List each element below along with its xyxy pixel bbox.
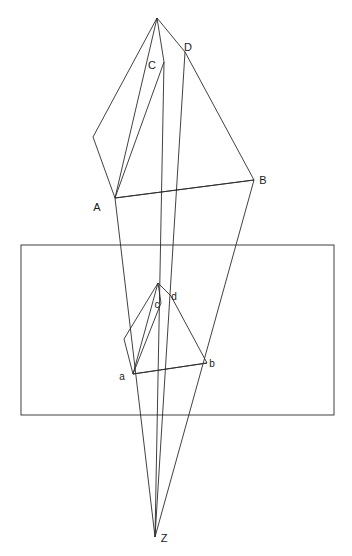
projection-rays bbox=[115, 52, 254, 537]
lower-edge-ab bbox=[133, 363, 207, 374]
vertex-label-B: B bbox=[259, 174, 266, 186]
vertex-label-c: c bbox=[155, 299, 160, 310]
lower-edge-apex-a bbox=[133, 283, 158, 374]
vertex-label-a: a bbox=[119, 371, 125, 382]
vertex-label-d: d bbox=[171, 291, 177, 302]
upper-figure-outline bbox=[93, 18, 254, 198]
upper-edge-apex-A bbox=[115, 18, 157, 198]
vertex-label-Z: Z bbox=[161, 532, 168, 544]
vertex-label-C: C bbox=[148, 59, 156, 71]
vertex-label-D: D bbox=[184, 41, 192, 53]
picture-plane-rectangle bbox=[21, 245, 334, 415]
upper-edge-AB bbox=[115, 180, 254, 198]
vertex-label-b: b bbox=[209, 358, 215, 369]
perspective-projection-diagram: A B C D a b c d Z bbox=[0, 0, 352, 556]
lower-edge-c-a bbox=[133, 303, 161, 374]
diagram-container: A B C D a b c d Z bbox=[0, 0, 352, 556]
vertex-label-A: A bbox=[93, 201, 101, 213]
upper-figure bbox=[93, 18, 254, 198]
